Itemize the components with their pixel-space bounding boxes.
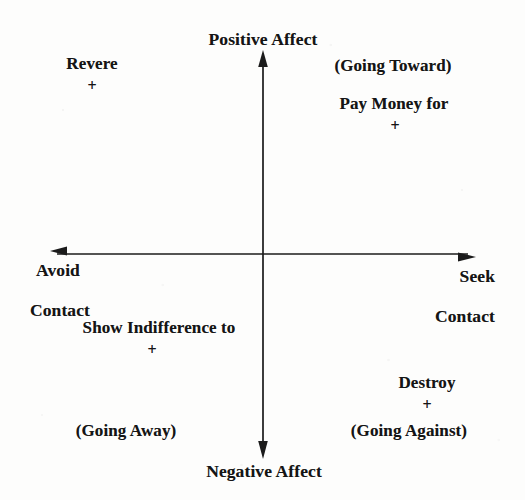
quadrant-bottom-left-mode: (Going Away) xyxy=(76,422,177,440)
quadrant-bottom-right-marker: + xyxy=(422,396,431,414)
quadrant-top-right-marker: + xyxy=(390,117,399,135)
axis-label-seek-contact-line2: Contact xyxy=(375,307,495,326)
axis-label-positive-affect: Positive Affect xyxy=(209,30,318,49)
quadrant-bottom-right-mode: (Going Against) xyxy=(351,422,467,440)
axis-arrowhead-up xyxy=(258,50,268,67)
axis-label-avoid-contact-line2: Contact xyxy=(30,301,90,320)
axis-label-seek-contact: Seek Contact xyxy=(375,267,495,304)
figure-canvas: Positive Affect Negative Affect Avoid Co… xyxy=(0,0,525,500)
quadrant-bottom-right-item: Destroy xyxy=(398,374,455,392)
axis-label-negative-affect: Negative Affect xyxy=(206,462,322,481)
axis-label-avoid-contact: Avoid Contact xyxy=(33,261,93,298)
quadrant-bottom-left-marker: + xyxy=(147,341,156,359)
axis-label-seek-contact-line1: Seek xyxy=(375,267,495,286)
quadrant-top-right-item: Pay Money for xyxy=(340,95,449,113)
axis-arrowhead-down xyxy=(258,441,268,459)
quadrant-top-right-mode: (Going Toward) xyxy=(334,57,451,75)
quadrant-bottom-left-item: Show Indifference to xyxy=(83,319,236,337)
axis-label-avoid-contact-line1: Avoid xyxy=(36,261,96,280)
quadrant-top-left-item: Revere xyxy=(66,55,117,73)
quadrant-top-left-marker: + xyxy=(87,77,96,95)
